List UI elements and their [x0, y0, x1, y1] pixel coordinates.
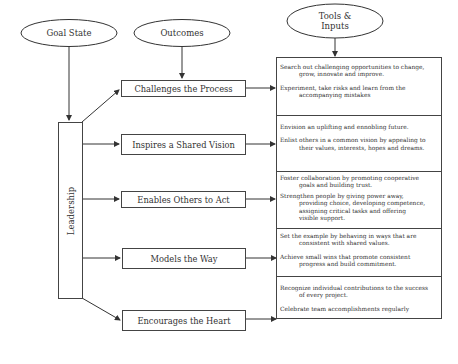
practice-inspires-shared-vision: Inspires a Shared Vision — [121, 134, 246, 155]
tools-section-inspires: Envision an uplifting and ennobling futu… — [277, 116, 441, 172]
practice-encourages-heart: Encourages the Heart — [122, 310, 246, 331]
tool-item: Foster collaboration by promoting cooper… — [277, 175, 441, 190]
tool-item: Search out challenging opportunities to … — [277, 64, 441, 79]
tools-section-models: Set the example by behaving in ways that… — [277, 229, 441, 277]
practice-label: Encourages the Heart — [137, 316, 230, 326]
tool-item: Celebrate team accomplishments regularly — [277, 306, 441, 313]
tool-item: Envision an uplifting and ennobling futu… — [277, 124, 441, 131]
practice-label: Models the Way — [151, 254, 218, 264]
practice-models-way: Models the Way — [122, 248, 246, 269]
tools-section-encourages: Recognize individual contributions to th… — [277, 277, 441, 319]
leadership-box: Leadership — [58, 122, 83, 299]
tool-item: Strengthen people by giving power away, … — [277, 193, 441, 223]
goal-state-label: Goal State — [21, 28, 117, 38]
tool-item: Recognize individual contributions to th… — [277, 285, 441, 300]
practice-label: Enables Others to Act — [137, 195, 229, 205]
leadership-label: Leadership — [66, 186, 76, 234]
practice-challenges-process: Challenges the Process — [121, 80, 246, 97]
tool-item: Set the example by behaving in ways that… — [277, 233, 441, 248]
tools-panel: Search out challenging opportunities to … — [276, 57, 442, 319]
outcomes-label: Outcomes — [134, 28, 230, 38]
tool-item: Enlist others in a common vision by appe… — [277, 137, 441, 152]
tool-item: Experiment, take risks and learn from th… — [277, 85, 441, 100]
practice-enables-others: Enables Others to Act — [121, 191, 246, 208]
tools-inputs-line1: Tools & — [287, 11, 383, 21]
practice-label: Inspires a Shared Vision — [132, 140, 235, 150]
tools-inputs-line2: Inputs — [287, 21, 383, 31]
tools-section-challenges: Search out challenging opportunities to … — [277, 58, 441, 116]
tools-inputs-label: Tools & Inputs — [287, 11, 383, 31]
tools-section-enables: Foster collaboration by promoting cooper… — [277, 172, 441, 229]
practice-label: Challenges the Process — [134, 84, 232, 94]
tool-item: Achieve small wins that promote consiste… — [277, 254, 441, 269]
